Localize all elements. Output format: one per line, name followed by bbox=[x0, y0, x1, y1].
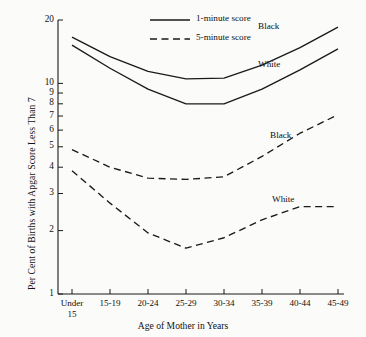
y-tick-label: 10 bbox=[30, 77, 54, 87]
y-tick-label: 20 bbox=[30, 14, 54, 24]
x-tick-label: 45-49 bbox=[313, 298, 363, 309]
y-tick-label: 6 bbox=[30, 124, 54, 134]
y-tick-label: 1 bbox=[30, 288, 54, 298]
y-tick-label: 9 bbox=[30, 87, 54, 97]
series-line bbox=[72, 171, 338, 248]
legend-label: 5-minute score bbox=[196, 32, 251, 42]
chart-plot-area bbox=[0, 0, 366, 337]
y-tick-label: 3 bbox=[30, 187, 54, 197]
chart-legend-swatches bbox=[150, 20, 190, 39]
series-line bbox=[72, 45, 338, 104]
x-axis-title: Age of Mother in Years bbox=[0, 320, 366, 331]
y-tick-label: 8 bbox=[30, 97, 54, 107]
y-tick-label: 4 bbox=[30, 161, 54, 171]
chart-figure: Per Cent of Births with Apgar Score Less… bbox=[0, 0, 366, 337]
y-tick-label: 7 bbox=[30, 110, 54, 120]
legend-label: 1-minute score bbox=[196, 13, 251, 23]
chart-series-lines bbox=[72, 27, 338, 248]
series-annotation-label: Black bbox=[270, 130, 291, 140]
y-tick-label: 2 bbox=[30, 224, 54, 234]
y-tick-label: 5 bbox=[30, 140, 54, 150]
series-annotation-label: White bbox=[258, 59, 280, 69]
series-line bbox=[72, 115, 338, 180]
chart-axes bbox=[58, 20, 344, 294]
series-annotation-label: Black bbox=[258, 21, 279, 31]
series-annotation-label: White bbox=[272, 194, 294, 204]
